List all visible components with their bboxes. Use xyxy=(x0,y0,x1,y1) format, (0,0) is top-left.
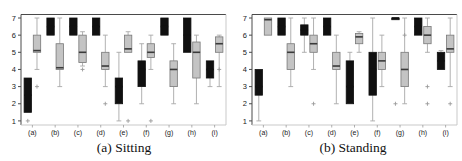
x-category-label: (c) xyxy=(305,129,313,137)
x-category-label: (b) xyxy=(282,129,291,137)
subplot-standing: (b) Standing 1234567(a)(b)(c)(d)(e)(f)(g… xyxy=(231,0,462,161)
x-category-label: (d) xyxy=(327,129,336,137)
y-tick-label: 5 xyxy=(12,48,16,57)
x-category-label: (e) xyxy=(119,129,128,137)
y-tick-label: 1 xyxy=(12,117,16,126)
box-black xyxy=(138,61,145,87)
y-tick-label: 5 xyxy=(243,48,247,57)
y-tick-label: 4 xyxy=(243,65,247,74)
box-gray xyxy=(287,44,294,70)
box-gray xyxy=(124,35,131,52)
boxplot-figure: (a) Sitting 1234567(a)(b)(c)(d)(e)(f)(g)… xyxy=(0,0,462,161)
x-category-label: (c) xyxy=(74,129,82,137)
box-gray xyxy=(264,18,271,35)
x-category-label: (a) xyxy=(28,129,37,137)
y-tick-label: 2 xyxy=(12,99,16,108)
box-gray xyxy=(147,44,154,58)
caption-sitting: (a) Sitting xyxy=(97,140,152,155)
x-category-label: (d) xyxy=(96,129,105,137)
y-tick-label: 1 xyxy=(243,117,247,126)
y-tick-label: 2 xyxy=(243,99,247,108)
x-category-label: (a) xyxy=(259,129,268,137)
box-gray xyxy=(447,35,454,52)
y-tick-label: 3 xyxy=(243,82,247,91)
boxplot-standing-svg: (b) Standing 1234567(a)(b)(c)(d)(e)(f)(g… xyxy=(231,0,462,161)
x-category-label: (g) xyxy=(396,129,405,137)
box-gray xyxy=(193,42,200,78)
y-tick-label: 7 xyxy=(243,14,247,23)
x-category-label: (b) xyxy=(51,129,60,137)
y-tick-label: 6 xyxy=(243,31,247,40)
box-black xyxy=(369,52,376,95)
box-black xyxy=(255,69,262,95)
box-black xyxy=(346,61,353,104)
box-gray xyxy=(333,52,340,69)
x-category-label: (h) xyxy=(188,129,197,137)
x-category-label: (i) xyxy=(443,129,449,137)
box-gray xyxy=(170,61,177,87)
y-tick-label: 4 xyxy=(12,65,16,74)
x-category-label: (i) xyxy=(212,129,218,137)
box-black xyxy=(115,78,122,104)
box-gray xyxy=(79,35,86,62)
x-category-label: (f) xyxy=(143,129,150,137)
y-tick-label: 6 xyxy=(12,31,16,40)
x-category-label: (e) xyxy=(350,129,359,137)
y-tick-label: 3 xyxy=(12,82,16,91)
box-gray xyxy=(102,52,109,69)
box-gray xyxy=(355,33,362,43)
subplot-sitting: (a) Sitting 1234567(a)(b)(c)(d)(e)(f)(g)… xyxy=(0,0,231,161)
boxplot-sitting-svg: (a) Sitting 1234567(a)(b)(c)(d)(e)(f)(g)… xyxy=(0,0,231,161)
x-category-label: (f) xyxy=(374,129,381,137)
y-tick-label: 7 xyxy=(12,14,16,23)
box-gray xyxy=(216,37,223,52)
x-category-label: (g) xyxy=(165,129,174,137)
box-gray xyxy=(56,44,63,70)
caption-standing: (b) Standing xyxy=(319,140,386,155)
x-category-label: (h) xyxy=(419,129,428,137)
box-gray xyxy=(33,35,40,52)
